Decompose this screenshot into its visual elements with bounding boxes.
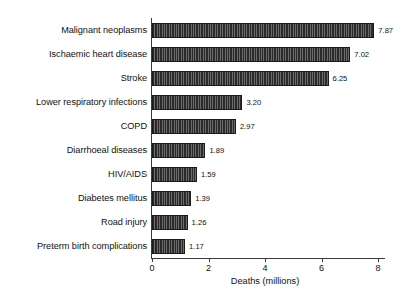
bar <box>152 47 350 62</box>
bar-value-label: 7.02 <box>354 47 369 62</box>
bar-value-label: 7.87 <box>378 23 393 38</box>
bar-and-value: 6.25 <box>152 71 347 86</box>
x-tick-mark <box>378 258 379 262</box>
x-tick-mark <box>322 258 323 262</box>
bar <box>152 71 329 86</box>
bar <box>152 119 236 134</box>
x-tick-label: 6 <box>310 263 334 273</box>
x-tick-label: 0 <box>140 263 164 273</box>
bar <box>152 215 188 230</box>
bar-and-value: 1.17 <box>152 239 204 254</box>
category-label: Ischaemic heart disease <box>0 42 147 66</box>
bar-row: Stroke6.25 <box>0 66 409 90</box>
bar-value-label: 1.26 <box>192 215 207 230</box>
bar-and-value: 1.89 <box>152 143 224 158</box>
bar <box>152 191 191 206</box>
bar-row: Preterm birth complications1.17 <box>0 234 409 258</box>
bar-and-value: 2.97 <box>152 119 255 134</box>
category-label: Preterm birth complications <box>0 234 147 258</box>
bar-row: COPD2.97 <box>0 114 409 138</box>
category-label: HIV/AIDS <box>0 162 147 186</box>
category-label: COPD <box>0 114 147 138</box>
bar <box>152 143 205 158</box>
bar-value-label: 2.97 <box>240 119 255 134</box>
bar <box>152 239 185 254</box>
bar-chart: Malignant neoplasms7.87Ischaemic heart d… <box>0 0 409 300</box>
bar-value-label: 1.39 <box>195 191 210 206</box>
bar-and-value: 1.39 <box>152 191 210 206</box>
bar-row: Road injury1.26 <box>0 210 409 234</box>
category-label: Stroke <box>0 66 147 90</box>
bar <box>152 95 242 110</box>
bar-row: Malignant neoplasms7.87 <box>0 18 409 42</box>
category-label: Road injury <box>0 210 147 234</box>
bar-and-value: 7.87 <box>152 23 393 38</box>
x-tick-mark <box>265 258 266 262</box>
category-label: Diabetes mellitus <box>0 186 147 210</box>
bar-value-label: 1.59 <box>201 167 216 182</box>
bar-and-value: 1.26 <box>152 215 206 230</box>
bar-row: Lower respiratory infections3.20 <box>0 90 409 114</box>
x-tick-label: 4 <box>253 263 277 273</box>
category-label: Diarrhoeal diseases <box>0 138 147 162</box>
bar-and-value: 3.20 <box>152 95 261 110</box>
x-tick-mark <box>152 258 153 262</box>
bar-row: Diabetes mellitus1.39 <box>0 186 409 210</box>
x-tick-mark <box>209 258 210 262</box>
bar-value-label: 1.17 <box>189 239 204 254</box>
bar-and-value: 1.59 <box>152 167 216 182</box>
bar <box>152 23 374 38</box>
bar-value-label: 1.89 <box>209 143 224 158</box>
bar-row: Ischaemic heart disease7.02 <box>0 42 409 66</box>
bar-value-label: 3.20 <box>246 95 261 110</box>
x-tick-label: 8 <box>366 263 390 273</box>
x-axis-title: Deaths (millions) <box>152 276 378 286</box>
bar <box>152 167 197 182</box>
bar-rows: Malignant neoplasms7.87Ischaemic heart d… <box>0 18 409 258</box>
bar-row: HIV/AIDS1.59 <box>0 162 409 186</box>
bar-and-value: 7.02 <box>152 47 369 62</box>
x-tick-label: 2 <box>197 263 221 273</box>
bar-value-label: 6.25 <box>333 71 348 86</box>
category-label: Lower respiratory infections <box>0 90 147 114</box>
category-label: Malignant neoplasms <box>0 18 147 42</box>
bar-row: Diarrhoeal diseases1.89 <box>0 138 409 162</box>
